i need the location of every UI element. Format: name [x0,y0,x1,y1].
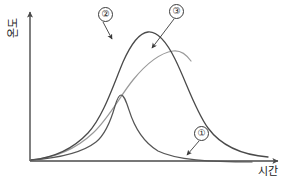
temperature-time-curve-figure: 온도 시간 ② ③ ① [0,0,290,183]
callout-leader-1 [187,141,199,155]
plot-canvas [0,0,290,183]
curve-3-low-dome [31,51,191,160]
callout-leader-2 [103,22,112,39]
curve-label-1: ① [194,126,209,141]
curve-label-2: ② [98,7,113,22]
curve-2-tall-dome [31,32,268,160]
curve-label-3: ③ [169,4,184,19]
y-axis-label: 온도 [8,13,19,43]
x-axis-label: 시간 [258,166,278,177]
